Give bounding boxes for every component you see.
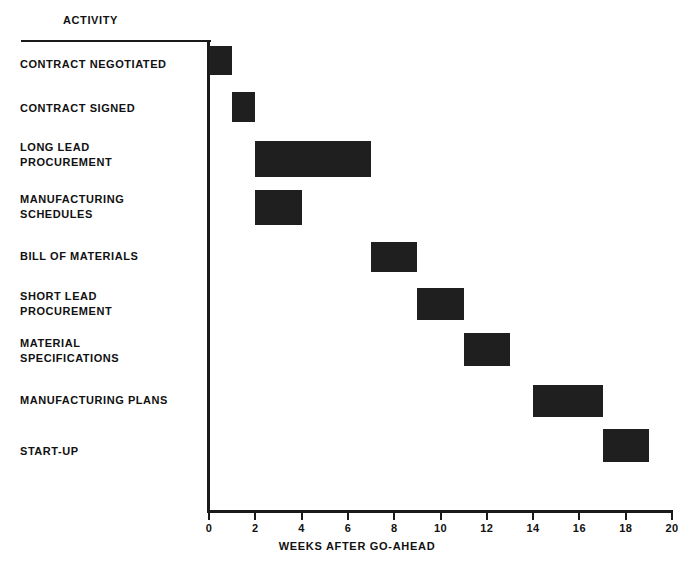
activity-label: CONTRACT SIGNED: [20, 101, 135, 116]
x-axis-tick-label: 0: [206, 522, 213, 534]
x-axis-tick-label: 2: [252, 522, 259, 534]
x-axis-tick: [625, 513, 627, 520]
x-axis-tick: [393, 513, 395, 520]
gantt-bar: [255, 190, 301, 225]
activity-label: START-UP: [20, 444, 79, 459]
x-axis-tick: [532, 513, 534, 520]
x-axis-tick: [347, 513, 349, 520]
x-axis-tick-label: 6: [345, 522, 352, 534]
activity-label: MANUFACTURING PLANS: [20, 393, 168, 408]
activity-label: SHORT LEAD PROCUREMENT: [20, 289, 112, 319]
x-axis-tick: [208, 513, 210, 520]
x-axis-tick: [671, 513, 673, 520]
activity-label: MANUFACTURING SCHEDULES: [20, 192, 124, 222]
x-axis-tick-label: 18: [619, 522, 632, 534]
x-axis-tick: [578, 513, 580, 520]
x-axis-tick: [254, 513, 256, 520]
gantt-bar: [464, 333, 510, 366]
x-axis-tick: [486, 513, 488, 520]
gantt-chart: ACTIVITY 02468101214161820 CONTRACT NEGO…: [0, 0, 692, 572]
gantt-bar: [417, 288, 463, 320]
x-axis-tick-label: 8: [391, 522, 398, 534]
x-axis-tick-label: 20: [665, 522, 678, 534]
x-axis-tick-label: 14: [527, 522, 540, 534]
x-axis-title: WEEKS AFTER GO-AHEAD: [0, 540, 692, 552]
x-axis-tick-label: 16: [573, 522, 586, 534]
activity-label: LONG LEAD PROCUREMENT: [20, 140, 112, 170]
gantt-bar: [603, 429, 649, 462]
x-axis-tick: [440, 513, 442, 520]
x-axis-tick: [301, 513, 303, 520]
x-axis-tick-label: 12: [480, 522, 493, 534]
gantt-bar: [371, 242, 417, 272]
x-axis-tick-label: 10: [434, 522, 447, 534]
y-axis-line: [207, 40, 210, 513]
activity-label: BILL OF MATERIALS: [20, 249, 138, 264]
activity-label: CONTRACT NEGOTIATED: [20, 57, 167, 72]
activity-label: MATERIAL SPECIFICATIONS: [20, 336, 119, 366]
activity-column-header: ACTIVITY: [63, 14, 118, 26]
gantt-bar: [232, 92, 255, 122]
x-axis-tick-label: 4: [298, 522, 305, 534]
gantt-bar: [255, 141, 371, 177]
x-axis-title-text: WEEKS AFTER GO-AHEAD: [257, 540, 436, 552]
gantt-bar: [533, 385, 602, 417]
gantt-bar: [209, 46, 232, 75]
activity-header-rule: [21, 40, 211, 42]
